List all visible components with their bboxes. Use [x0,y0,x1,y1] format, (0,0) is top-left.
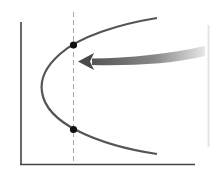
diagram [0,0,211,174]
upper-intersection-point [70,41,77,48]
lower-intersection-point [70,126,77,133]
arrow-body [92,46,205,65]
arrow-head-icon [78,53,94,70]
parabola-curve [42,18,157,154]
diagram-canvas [0,0,211,174]
